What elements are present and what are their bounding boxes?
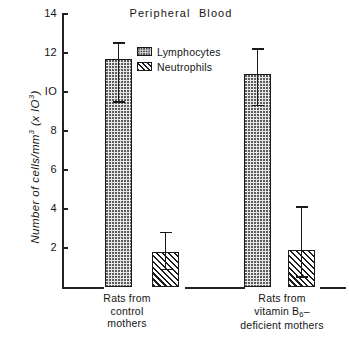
chart-figure: Peripheral Blood Number of cells/mm3 (x …	[0, 0, 349, 344]
group-label-deficient-line3: deficient mothers	[218, 319, 346, 332]
legend-label-lymphocytes: Lymphocytes	[157, 46, 221, 58]
legend-swatch-lymphocytes-icon	[137, 47, 152, 56]
group-label-control-line3: mothers	[72, 317, 182, 330]
legend-item-neutrophils: Neutrophils	[137, 60, 221, 73]
errorbar-cap-upper-lymphocytes-group1	[113, 42, 125, 44]
chart-legend: Lymphocytes Neutrophils	[137, 45, 221, 75]
y-tick-6	[62, 169, 68, 171]
errorbar-cap-upper-neutrophils-group2	[296, 206, 308, 208]
errorbar-cap-lower-lymphocytes-group2	[252, 105, 264, 107]
group-label-control-line2: control	[72, 305, 182, 318]
y-axis-label-lead: Number of cells/mm	[29, 134, 41, 243]
group-label-control: Rats from control mothers	[72, 292, 182, 330]
y-tick-10	[62, 91, 68, 93]
group-label-control-line1: Rats from	[72, 292, 182, 305]
y-tick-label-14: 14	[33, 7, 57, 19]
baseline-segment-1	[62, 287, 104, 289]
y-tick-8	[62, 130, 68, 132]
y-tick-label-10: IO	[33, 85, 57, 97]
group-label-deficient-line2: vitamin B6–	[218, 305, 346, 320]
legend-label-neutrophils: Neutrophils	[157, 61, 212, 73]
errorbar-cap-lower-lymphocytes-group1	[113, 101, 125, 103]
y-tick-label-12: 12	[33, 46, 57, 58]
y-tick-12	[62, 52, 68, 54]
group-label-deficient: Rats from vitamin B6– deficient mothers	[218, 292, 346, 332]
errorbar-cap-upper-neutrophils-group1	[160, 232, 172, 234]
legend-swatch-neutrophils-icon	[137, 62, 152, 71]
errorbar-stem-lymphocytes-group1	[118, 43, 120, 102]
errorbar-stem-neutrophils-group2	[301, 207, 303, 277]
errorbar-cap-lower-neutrophils-group2	[296, 276, 308, 278]
y-tick-label-2: 2	[33, 241, 57, 253]
baseline-segment-3	[320, 287, 346, 289]
y-tick-label-4: 4	[33, 202, 57, 214]
baseline-segment-2	[185, 287, 245, 289]
chart-title: Peripheral Blood	[106, 7, 256, 19]
y-tick-2	[62, 247, 68, 249]
y-tick-14	[62, 13, 68, 15]
errorbar-cap-upper-lymphocytes-group2	[252, 48, 264, 50]
legend-item-lymphocytes: Lymphocytes	[137, 45, 221, 58]
y-tick-label-8: 8	[33, 124, 57, 136]
errorbar-stem-neutrophils-group1	[165, 232, 167, 269]
group-label-deficient-line1: Rats from	[218, 292, 346, 305]
errorbar-stem-lymphocytes-group2	[257, 49, 259, 106]
errorbar-cap-lower-neutrophils-group1	[160, 269, 172, 271]
y-tick-label-6: 6	[33, 163, 57, 175]
y-tick-4	[62, 208, 68, 210]
